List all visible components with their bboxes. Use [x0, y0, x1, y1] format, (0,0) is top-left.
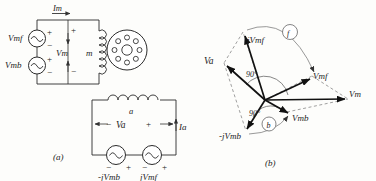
label-ia: Ia: [178, 122, 187, 132]
phasor-dashed-construction: [224, 32, 348, 131]
phasor-label-minus-jvmb: -jVmb: [219, 131, 241, 141]
src4-minus: −: [142, 162, 147, 172]
label-minus-j-vmb: -jVmb: [98, 172, 120, 181]
polarity-minus-vmf: −: [47, 40, 52, 50]
dash-vmb-to-vm: [287, 99, 348, 112]
label-coil-m: m: [86, 48, 93, 58]
phasor-vectors: [227, 36, 345, 129]
polarity-plus-vmf: +: [47, 27, 52, 37]
ac-source-vmb: [29, 57, 46, 74]
coil-main-m: [99, 30, 106, 74]
phasor-label-vmf: Vmf: [313, 71, 329, 81]
polarity-minus-vmb: −: [47, 67, 52, 77]
motor-cross-section: [107, 30, 147, 70]
rotation-label-b: b: [267, 121, 271, 130]
phasor-vm: [265, 99, 345, 100]
label-vmb: Vmb: [5, 60, 22, 70]
branch-minus: −: [71, 66, 76, 76]
phasor-label-jvmf: jVmf: [246, 35, 265, 45]
caption-b: (b): [265, 158, 276, 168]
phasor-vmf: [265, 79, 310, 100]
label-j-vmf: jVmf: [139, 172, 158, 181]
label-vm: Vm: [56, 48, 68, 58]
label-vmf: Vmf: [8, 33, 24, 43]
label-im: Im: [52, 3, 62, 13]
src4-plus: +: [162, 162, 167, 172]
rotation-marker-b: b: [262, 117, 276, 131]
label-va: Va: [116, 120, 126, 130]
label-coil-a: a: [129, 106, 133, 116]
src3-plus: +: [126, 162, 131, 172]
dash-jvmf-to-va: [224, 32, 243, 63]
va-minus: −: [106, 119, 111, 129]
phasor-vmb: [265, 100, 288, 113]
panel-a-lower-circuit: [92, 100, 176, 155]
branch-plus: +: [71, 25, 76, 35]
figure-canvas: Vmf Vmb + − + − + − Vm m Im: [0, 0, 376, 181]
figure-svg: Vmf Vmb + − + − + − Vm m Im: [0, 0, 376, 181]
angle-label-upper: 90°: [246, 70, 258, 79]
va-plus: +: [146, 119, 151, 129]
src3-minus: −: [106, 162, 111, 172]
phasor-label-va: Va: [204, 56, 214, 66]
ac-source-vmf: [29, 30, 46, 47]
rotation-marker-f: f: [283, 25, 298, 40]
caption-a: (a): [53, 152, 64, 162]
phasor-label-vm: Vm: [349, 89, 361, 99]
coil-aux-a: [108, 95, 158, 100]
arc-forward: [247, 27, 314, 72]
phasor-label-vmb: Vmb: [292, 113, 309, 123]
angle-label-lower: 90°: [249, 109, 261, 118]
polarity-plus-vmb: +: [47, 54, 52, 64]
